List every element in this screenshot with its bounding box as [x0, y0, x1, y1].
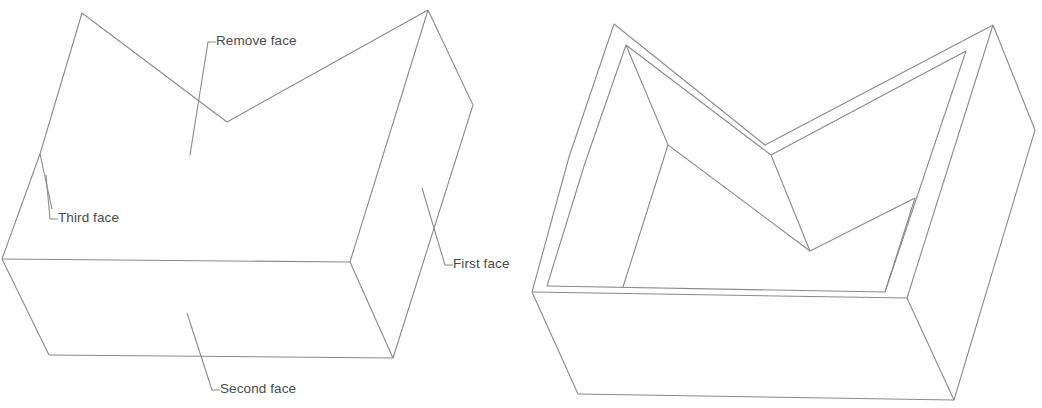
right-outer-right-silhouette — [954, 25, 1035, 400]
left-bottom-front-edge — [49, 355, 393, 358]
right-inner-floor-back-edge — [547, 286, 885, 292]
left-right-outer-silhouette — [393, 10, 473, 358]
right-inner-left-wall-top — [547, 45, 626, 286]
right-cavity-left-floor-edge — [623, 145, 668, 287]
right-inner-ridge-left — [626, 45, 771, 155]
left-right-front-long-edge — [350, 10, 428, 262]
diagram-canvas: Remove face Third face Second face First… — [0, 0, 1042, 408]
left-figure-drawing — [0, 0, 521, 408]
right-outer-ridge-right — [765, 25, 993, 145]
right-outer-left-silhouette — [532, 24, 614, 292]
right-outer-front-right-vertical — [907, 298, 954, 400]
left-front-face-top-edge — [2, 259, 350, 262]
right-front-face-top-edge — [532, 292, 907, 298]
third-face-label: Third face — [58, 211, 119, 225]
right-outer-ridge-left — [614, 24, 765, 145]
right-cavity-right-fold-edge — [810, 198, 915, 251]
right-outer-front-left-vertical — [532, 292, 578, 394]
right-cavity-left-fold-edge — [626, 45, 810, 251]
left-roof-panel-left-edge — [82, 13, 227, 122]
first-face-leader-line — [422, 188, 453, 265]
second-face-leader-line — [187, 313, 220, 390]
right-cavity-right-floor-edge — [885, 198, 915, 292]
remove-face-leader-line — [190, 42, 216, 155]
right-outer-right-front-long-edge — [907, 25, 993, 298]
left-front-left-vertical — [2, 259, 49, 355]
first-face-label: First face — [453, 257, 510, 271]
remove-face-label: Remove face — [216, 34, 297, 48]
second-face-label: Second face — [220, 382, 296, 396]
left-roof-panel-right-edge — [227, 10, 428, 122]
left-third-face-wedge-edge — [40, 154, 52, 209]
third-face-leader-line — [46, 175, 58, 219]
right-figure-drawing — [521, 0, 1042, 408]
right-bottom-front-edge — [578, 394, 954, 400]
left-front-right-vertical — [350, 262, 393, 358]
